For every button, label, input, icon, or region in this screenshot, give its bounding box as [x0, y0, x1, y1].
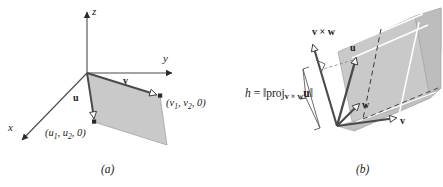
- formula-norm-close: ‖: [310, 87, 313, 99]
- formula-lhs: h: [245, 87, 251, 99]
- panel-b-caption: (b): [356, 164, 369, 176]
- formula-proj: proj: [266, 87, 285, 99]
- point-u-tail: , 0): [72, 127, 86, 138]
- panel-a-caption: (a): [101, 164, 114, 176]
- point-u-dot: [92, 120, 96, 124]
- vector-cross-vw-arrow: [313, 45, 337, 126]
- vector-u-label-b: u: [350, 43, 356, 53]
- vector-v-label-b: v: [400, 116, 405, 126]
- vector-w-label: w: [362, 100, 369, 110]
- vector-cross-vw-label: v × w: [312, 27, 335, 37]
- panel-a-graphics: [22, 12, 172, 145]
- point-v-label: (v1, v2, 0): [166, 98, 206, 111]
- formula-equals: =: [254, 87, 261, 99]
- point-v-dot: [158, 94, 162, 98]
- vector-u-label: u: [73, 93, 79, 103]
- y-axis-label: y: [163, 53, 168, 64]
- point-u-sub1: 1: [54, 132, 58, 141]
- x-axis-label: x: [8, 122, 13, 133]
- vector-v-label: v: [123, 76, 128, 86]
- z-axis-label: z: [92, 6, 96, 17]
- figure-vector-graphics: [0, 0, 443, 187]
- point-u-label: (u1, u2, 0): [45, 128, 86, 141]
- formula-subscript: v × w: [285, 92, 303, 101]
- height-formula: h = ‖projv × wu‖: [245, 88, 313, 101]
- point-v-sub1: 1: [174, 102, 178, 111]
- point-v-tail: , 0): [192, 97, 206, 108]
- figure-container: z y x u v (u1, u2, 0) (v1, v2, 0) (a) v …: [0, 0, 443, 187]
